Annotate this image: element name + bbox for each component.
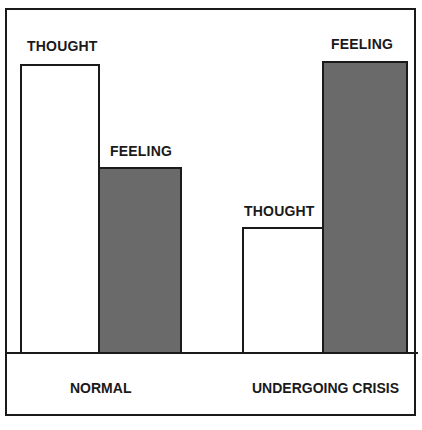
- bar-normal-feeling: [98, 167, 182, 354]
- category-normal: NORMAL: [70, 380, 131, 396]
- bar-crisis-thought: [242, 227, 324, 354]
- label-crisis-feeling: FEELING: [331, 36, 393, 52]
- baseline: [5, 352, 418, 354]
- category-crisis: UNDERGOING CRISIS: [252, 380, 399, 396]
- label-normal-thought: THOUGHT: [27, 38, 98, 54]
- bar-normal-thought: [20, 64, 100, 354]
- bar-crisis-feeling: [322, 61, 408, 354]
- label-normal-feeling: FEELING: [110, 143, 172, 159]
- label-crisis-thought: THOUGHT: [244, 203, 315, 219]
